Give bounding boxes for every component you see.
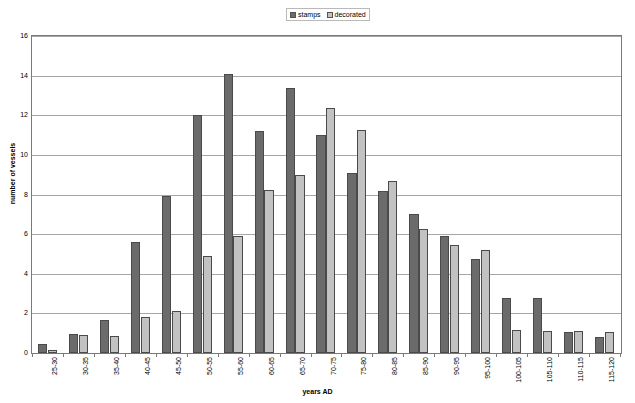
y-axis-tick-label: 0	[4, 349, 28, 356]
x-axis-tick	[620, 353, 621, 357]
x-axis-tick-label: 50-55	[206, 357, 214, 375]
legend-swatch-stamps-icon	[290, 12, 296, 18]
bar-stamps	[440, 236, 449, 353]
bar-decorated	[141, 317, 150, 353]
bar-group	[218, 36, 249, 353]
bar-chart: stamps decorated 0246810121416 number of…	[0, 0, 635, 403]
bar-group	[527, 36, 558, 353]
bar-stamps	[409, 214, 418, 353]
bar-group	[32, 36, 63, 353]
bar-decorated	[264, 190, 273, 353]
x-axis-tick-label: 105-110	[546, 357, 554, 382]
bar-group	[496, 36, 527, 353]
x-axis-tick-label: 90-95	[453, 357, 461, 375]
bar-stamps	[471, 259, 480, 353]
bar-group	[156, 36, 187, 353]
bar-decorated	[605, 332, 614, 353]
bar-decorated	[203, 256, 212, 353]
y-axis-tick-label: 12	[4, 111, 28, 118]
bar-stamps	[162, 196, 171, 353]
x-axis-tick-label: 110-115	[577, 357, 585, 382]
bar-group	[125, 36, 156, 353]
x-axis-tick-label: 75-80	[360, 357, 368, 375]
y-axis-tick-label: 16	[4, 32, 28, 39]
x-axis-tick-label: 100-105	[515, 357, 523, 383]
bar-stamps	[533, 298, 542, 353]
bar-group	[558, 36, 589, 353]
bar-stamps	[286, 88, 295, 353]
bar-decorated	[419, 229, 428, 353]
bar-stamps	[255, 131, 264, 353]
bar-group	[434, 36, 465, 353]
x-axis-tick-label: 45-50	[175, 357, 183, 375]
legend-swatch-decorated-icon	[327, 12, 333, 18]
bar-group	[341, 36, 372, 353]
bar-decorated	[110, 336, 119, 353]
bar-decorated	[574, 331, 583, 353]
legend-label-stamps: stamps	[298, 11, 321, 19]
chart-legend: stamps decorated	[286, 8, 370, 21]
bar-decorated	[481, 250, 490, 353]
bar-decorated	[233, 236, 242, 353]
x-axis-tick-label: 55-60	[237, 357, 245, 375]
bar-stamps	[100, 320, 109, 353]
x-axis-tick-label: 85-90	[422, 357, 430, 375]
bar-decorated	[79, 335, 88, 353]
bar-group	[311, 36, 342, 353]
x-axis-tick-label: 25-30	[51, 357, 59, 375]
bar-stamps	[378, 191, 387, 353]
bar-stamps	[564, 332, 573, 353]
bar-stamps	[224, 74, 233, 353]
x-axis-tick-label: 115-120	[608, 357, 616, 382]
bar-decorated	[357, 130, 366, 353]
x-axis-tick-label: 95-100	[484, 357, 492, 379]
x-axis-tick-label: 65-70	[299, 357, 307, 375]
bar-stamps	[131, 242, 140, 353]
y-axis-title: number of vessels	[9, 124, 16, 224]
bar-stamps	[69, 334, 78, 353]
y-axis-tick-label: 2	[4, 309, 28, 316]
legend-label-decorated: decorated	[335, 11, 366, 19]
x-axis-tick-label: 60-65	[268, 357, 276, 375]
x-axis-title: years AD	[0, 388, 635, 395]
y-axis-tick-label: 6	[4, 230, 28, 237]
bar-stamps	[595, 337, 604, 353]
x-axis-tick-label: 80-85	[391, 357, 399, 375]
y-axis-tick-label: 14	[4, 71, 28, 78]
bar-decorated	[326, 108, 335, 353]
y-axis-tick-label: 4	[4, 269, 28, 276]
bar-group	[249, 36, 280, 353]
bar-decorated	[172, 311, 181, 353]
bar-stamps	[347, 173, 356, 353]
bar-group	[403, 36, 434, 353]
bar-stamps	[502, 298, 511, 353]
bar-group	[280, 36, 311, 353]
bar-group	[187, 36, 218, 353]
bar-group	[94, 36, 125, 353]
bar-group	[589, 36, 620, 353]
bar-group	[465, 36, 496, 353]
bar-group	[63, 36, 94, 353]
legend-entry-decorated: decorated	[327, 11, 366, 19]
legend-entry-stamps: stamps	[290, 11, 321, 19]
bar-decorated	[543, 331, 552, 353]
bar-decorated	[388, 181, 397, 353]
x-axis-tick-label: 70-75	[330, 357, 338, 375]
bar-stamps	[316, 135, 325, 353]
bar-group	[372, 36, 403, 353]
x-axis-tick-label: 30-35	[82, 357, 90, 375]
bar-stamps	[193, 115, 202, 353]
bar-stamps	[38, 344, 47, 353]
bar-decorated	[450, 245, 459, 353]
bar-decorated	[295, 175, 304, 353]
x-axis-tick-label: 35-40	[113, 357, 121, 375]
x-axis-tick-label: 40-45	[144, 357, 152, 375]
bars-layer	[32, 36, 620, 353]
bar-decorated	[512, 330, 521, 353]
